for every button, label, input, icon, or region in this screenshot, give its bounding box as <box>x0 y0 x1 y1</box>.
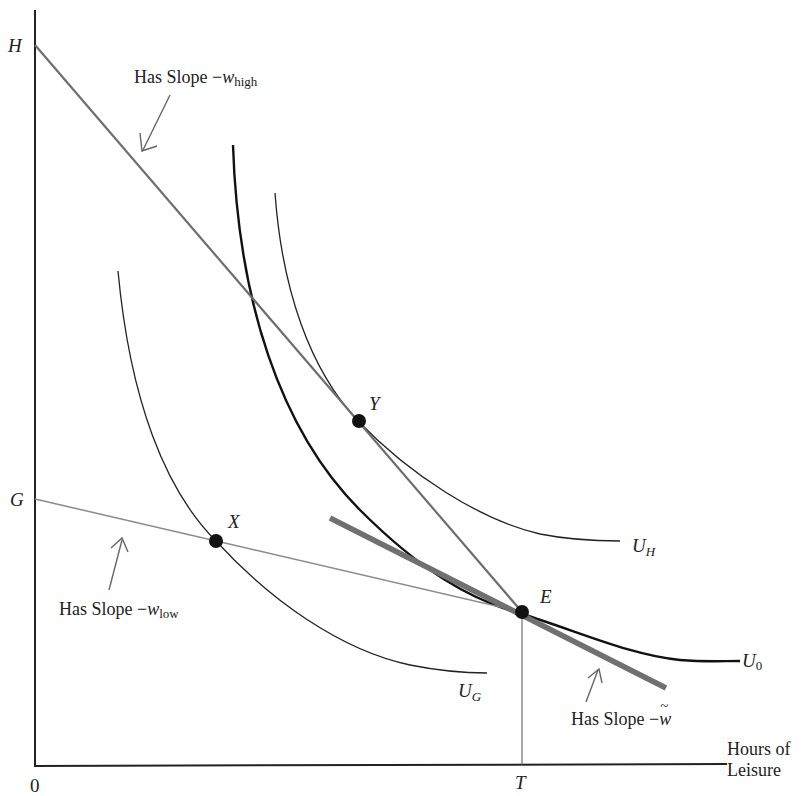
curve-label-u0: U0 <box>742 651 762 672</box>
curve-label-uh: UH <box>632 536 655 558</box>
point-e <box>515 605 529 619</box>
point-x-label: X <box>228 512 240 531</box>
curve-label-ug: UG <box>458 681 481 703</box>
x-axis-label-line1: Hours of <box>727 739 791 760</box>
arrow-icon-tilde <box>586 669 602 702</box>
arrow-icon-low <box>109 538 128 590</box>
y-intercept-h-label: H <box>8 36 22 55</box>
w-tilde-symbol: w <box>659 710 671 728</box>
annotation-slope-low: Has Slope −wlow <box>59 600 179 620</box>
x-tick-t-label: T <box>515 773 526 792</box>
x-axis-label: Hours of Leisure <box>727 739 791 781</box>
diagram-canvas <box>0 0 804 796</box>
indifference-curve-uh <box>275 193 620 541</box>
point-x <box>209 534 223 548</box>
x-axis <box>34 764 727 766</box>
origin-label: 0 <box>30 776 40 795</box>
labor-leisure-diagram: H G 0 T Hours of Leisure Y X E UH UG U0 … <box>0 0 804 796</box>
budget-line-high-wage <box>35 45 522 612</box>
annotation-slope-tilde: Has Slope −w <box>571 710 671 728</box>
annotation-slope-high: Has Slope −whigh <box>134 68 257 88</box>
point-y <box>352 414 366 428</box>
y-intercept-g-label: G <box>10 490 24 509</box>
tangent-line-w-tilde <box>330 518 666 688</box>
point-y-label: Y <box>369 394 380 413</box>
indifference-curve-u0 <box>233 145 740 661</box>
x-axis-label-line2: Leisure <box>727 760 791 781</box>
arrow-icon-high <box>140 95 170 151</box>
budget-line-low-wage <box>35 499 522 612</box>
point-e-label: E <box>540 587 552 606</box>
